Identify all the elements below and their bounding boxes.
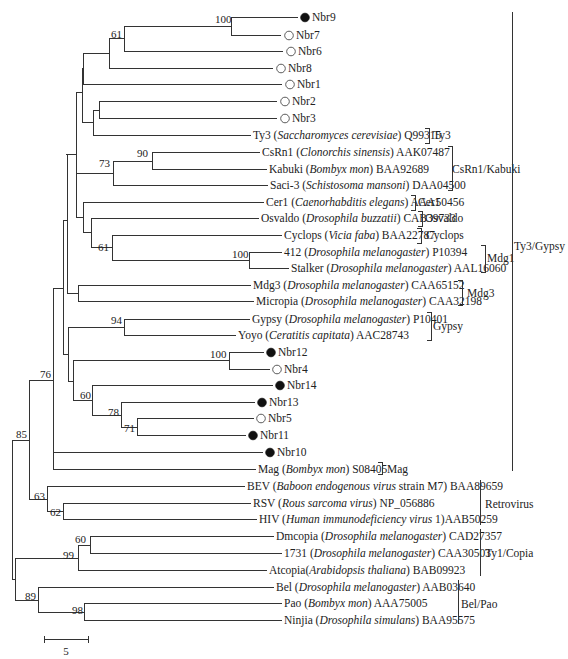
leaf-label: 1731 (Drosophila melanogaster) CAA30503: [284, 547, 491, 560]
leaf-nbr1: Nbr1: [286, 78, 321, 90]
species-name: Drosophila melanogaster: [286, 279, 405, 292]
label-text: Mag (: [258, 463, 286, 476]
label-text: Nbr5: [268, 412, 292, 424]
leaf-label: Yoyo (Ceratitis capitata) AAC28743: [238, 329, 409, 342]
leaf-label: Nbr7: [296, 29, 320, 41]
open-circle-marker-icon: [285, 31, 294, 40]
label-text: 412 (: [284, 246, 308, 259]
filled-circle-marker-icon: [301, 13, 310, 22]
bootstrap-values: 1006190736110094100607871768563626099899…: [16, 13, 249, 616]
leaf-label: Nbr13: [269, 396, 299, 408]
leaf-saci-3: Saci-3 (Schistosoma mansoni) DAA04500: [270, 179, 466, 192]
leaf-label: Nbr1: [297, 78, 321, 90]
bootstrap-value: 100: [232, 248, 249, 260]
bootstrap-value: 62: [50, 506, 61, 518]
label-text: Nbr8: [288, 62, 312, 74]
species-name: Clonorchis sinensis: [300, 146, 391, 158]
label-text: Dmcopia (: [276, 530, 325, 543]
label-text: ) AAK07487: [390, 146, 450, 159]
label-text: Nbr6: [298, 45, 322, 57]
phylogenetic-tree: 1006190736110094100607871768563626099899…: [0, 0, 568, 659]
family-label: Cyclops: [426, 229, 464, 242]
species-name: Vicia faba: [328, 229, 375, 242]
leaf-label: Nbr8: [288, 62, 312, 74]
leaf-412: 412 (Drosophila melanogaster) P10394: [284, 246, 468, 259]
species-name: Drosophila melanogaster: [298, 581, 417, 594]
label-text: ) AAC28743: [350, 329, 409, 342]
open-circle-marker-icon: [277, 64, 286, 73]
species-name: Drosophila simulans: [318, 614, 415, 627]
leaf-label: Ninjia (Drosophila simulans) BAA95575: [284, 614, 475, 627]
species-name: Arabidopsis thaliana: [308, 564, 406, 577]
label-text: ) AAA75005: [368, 597, 428, 610]
bootstrap-value: 60: [80, 389, 92, 401]
label-text: ) BAA92689: [369, 163, 429, 176]
bootstrap-value: 98: [72, 604, 84, 616]
label-text: ) CAA30503: [431, 547, 491, 560]
bootstrap-value: 63: [34, 490, 46, 502]
leaf-nbr14: Nbr14: [276, 379, 317, 391]
species-name: Drosophila buzzatii: [305, 212, 397, 225]
leaf-label: Nbr4: [284, 363, 308, 375]
leaf-dmcopia: Dmcopia (Drosophila melanogaster) CAD273…: [276, 530, 502, 543]
family-label: Mdg1: [487, 252, 515, 265]
leaf-label: Saci-3 (Schistosoma mansoni) DAA04500: [270, 179, 466, 192]
bootstrap-value: 85: [16, 428, 28, 440]
leaf-label: Mdg3 (Drosophila melanogaster) CAA65152: [253, 279, 465, 292]
family-label: Retrovirus: [485, 498, 534, 510]
species-name: Saccharomyces cerevisiae: [277, 129, 397, 142]
label-text: Mdg3 (: [253, 279, 287, 292]
label-text: Cyclops (: [284, 229, 329, 242]
label-text: Nbr14: [287, 379, 317, 391]
leaf-nbr5: Nbr5: [257, 412, 292, 424]
label-text: Ty3 (: [253, 129, 278, 142]
species-name: Rous sarcoma virus: [281, 497, 373, 509]
leaf-label: Nbr10: [277, 446, 307, 458]
family-ty3-gypsy: Ty3/Gypsy: [513, 12, 566, 471]
leaf-label: Nbr9: [312, 11, 336, 23]
leaf-label: Kabuki (Bombyx mon) BAA92689: [269, 163, 429, 176]
label-text: HIV (: [259, 513, 286, 526]
family-label: Ty1/Copia: [485, 547, 533, 560]
label-text: Nbr9: [312, 11, 336, 23]
filled-circle-marker-icon: [258, 398, 267, 407]
species-name: Schistosoma mansoni: [306, 179, 405, 191]
label-text: ) P10394: [425, 246, 467, 259]
leaf-label: Nbr5: [268, 412, 292, 424]
label-text: Nbr1: [297, 78, 321, 90]
filled-circle-marker-icon: [266, 448, 275, 457]
bootstrap-value: 94: [111, 314, 123, 326]
species-name: Drosophila melanogaster: [307, 246, 426, 259]
leaf-nbr2: Nbr2: [281, 95, 316, 107]
leaf-label: Nbr2: [292, 95, 316, 107]
leaf-labels: Nbr9Nbr7Nbr6Nbr8Nbr1Nbr2Nbr3Ty3 (Sacchar…: [238, 11, 506, 627]
label-text: BEV (: [247, 480, 277, 493]
label-text: Pao (: [284, 597, 308, 610]
family-label: Mag: [387, 463, 408, 476]
species-name: Baboon endogenous virus: [277, 480, 397, 493]
leaf-ty3: Ty3 (Saccharomyces cerevisiae) Q99315: [253, 129, 442, 142]
leaf-label: Cyclops (Vicia faba) BAA22787: [284, 229, 435, 242]
leaf-yoyo: Yoyo (Ceratitis capitata) AAC28743: [238, 329, 409, 342]
label-text: Gypsy (: [252, 313, 289, 326]
filled-circle-marker-icon: [267, 348, 276, 357]
family-label: Ty3/Gypsy: [514, 240, 565, 253]
label-text: 1)AAB50259: [432, 513, 498, 526]
label-text: RSV (: [253, 497, 282, 510]
leaf-label: 412 (Drosophila melanogaster) P10394: [284, 246, 468, 259]
leaf-gypsy: Gypsy (Drosophila melanogaster) P10401: [252, 313, 448, 326]
leaf-label: BEV (Baboon endogenous virus strain M7) …: [247, 480, 503, 493]
leaf-hiv: HIV (Human immunodeficiency virus 1)AAB5…: [259, 513, 498, 526]
family-label: Mdg3: [467, 287, 495, 300]
leaf-nbr12: Nbr12: [267, 346, 308, 358]
species-name: Human immunodeficiency virus: [285, 513, 433, 526]
label-text: Osvaldo (: [261, 212, 306, 225]
leaf-label: Ty3 (Saccharomyces cerevisiae) Q99315: [253, 129, 442, 142]
family-label: Gypsy: [433, 320, 463, 333]
leaf-mdg3: Mdg3 (Drosophila melanogaster) CAA65152: [253, 279, 465, 292]
species-name: Caenorhabditis elegans: [295, 196, 405, 209]
family-mag: Mag: [378, 463, 408, 477]
leaf-nbr3: Nbr3: [281, 112, 316, 124]
label-text: Nbr2: [292, 95, 316, 107]
label-text: ) CAD27357: [442, 530, 502, 543]
